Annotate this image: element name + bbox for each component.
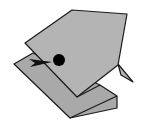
tail-fin	[118, 64, 133, 82]
eye-dot	[53, 54, 65, 66]
origami-fish-figure	[0, 0, 141, 126]
